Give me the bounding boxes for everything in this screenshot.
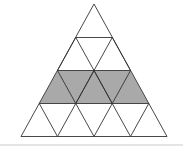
triangle-grid-diagram — [0, 0, 183, 147]
shaded-band — [39, 71, 149, 104]
bottom-divider — [0, 144, 183, 146]
grid-lines — [21, 4, 167, 137]
